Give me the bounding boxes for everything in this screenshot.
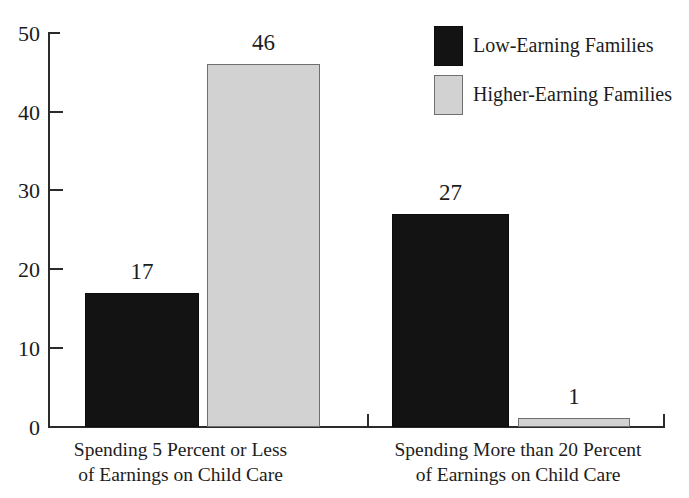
x-axis-category-label-2-line-2: of Earnings on Child Care [368, 462, 668, 487]
x-axis-category-label-1-line-1: Spending 5 Percent or Less [43, 437, 318, 462]
y-axis-label-0: 0 [4, 417, 40, 439]
y-tick-0 [50, 426, 63, 428]
bar-value-group1-higher-earning: 46 [207, 31, 320, 54]
bar-value-group1-low-earning: 17 [85, 260, 199, 283]
legend-swatch-low-earning-icon [434, 26, 463, 66]
bar-value-group2-low-earning: 27 [392, 181, 509, 204]
bar-group1-low-earning[interactable] [85, 293, 199, 427]
x-axis-category-label-1: Spending 5 Percent or Less of Earnings o… [43, 437, 318, 487]
y-axis-top-cap [48, 32, 60, 34]
y-axis-label-10: 10 [4, 338, 40, 360]
y-tick-20 [50, 268, 63, 270]
bar-value-group2-higher-earning: 1 [518, 385, 630, 408]
bar-chart: 0 10 20 30 40 50 17 46 27 1 Spending 5 P… [0, 0, 689, 498]
y-tick-10 [50, 347, 63, 349]
legend-label-higher-earning: Higher-Earning Families [473, 84, 672, 104]
legend-label-low-earning: Low-Earning Families [473, 35, 654, 55]
y-tick-30 [50, 189, 63, 191]
y-axis-line [48, 32, 50, 428]
x-axis-category-label-2-line-1: Spending More than 20 Percent [368, 437, 668, 462]
y-axis-label-50: 50 [4, 23, 40, 45]
x-axis-right-cap [663, 414, 665, 427]
x-axis-category-label-1-line-2: of Earnings on Child Care [43, 462, 318, 487]
bar-group2-higher-earning[interactable] [518, 418, 630, 427]
x-axis-category-label-2: Spending More than 20 Percent of Earning… [368, 437, 668, 487]
x-axis-middle-tick [367, 414, 369, 427]
bar-group2-low-earning[interactable] [392, 214, 509, 427]
legend-swatch-higher-earning-icon [434, 75, 463, 115]
y-axis-label-40: 40 [4, 102, 40, 124]
y-tick-40 [50, 111, 63, 113]
y-axis-label-20: 20 [4, 259, 40, 281]
bar-group1-higher-earning[interactable] [207, 64, 320, 427]
y-axis-label-30: 30 [4, 180, 40, 202]
